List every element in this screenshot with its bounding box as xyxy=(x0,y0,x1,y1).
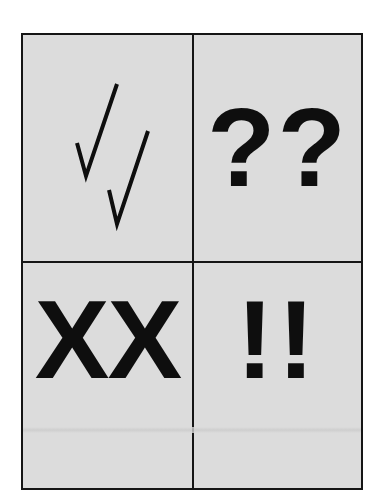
double-question-icon: ?? xyxy=(207,92,348,204)
cell-bottom-left: XX xyxy=(23,263,192,488)
double-check-icon xyxy=(23,35,192,261)
cell-top-right: ?? xyxy=(194,35,361,261)
double-x-icon: XX xyxy=(35,284,180,396)
symbol-grid: ?? XX !! xyxy=(21,33,363,490)
cell-top-left xyxy=(23,35,192,261)
double-exclamation-icon: !! xyxy=(236,284,319,396)
cell-bottom-right: !! xyxy=(194,263,361,488)
